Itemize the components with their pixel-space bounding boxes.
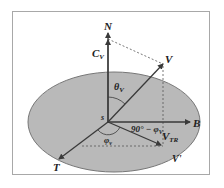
label-t: T [53,161,61,173]
label-v-prime: V' [172,153,182,164]
label-cv: CV [92,47,105,61]
label-b: B [192,117,200,129]
label-s: s [100,113,104,122]
label-v: V [165,53,174,65]
label-n: N [103,20,113,32]
vector-diagram: N CV V θV s B 90° − φV VTR φv T V' [0,0,224,188]
